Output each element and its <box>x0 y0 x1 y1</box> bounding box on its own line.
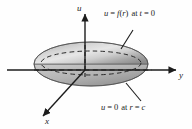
initial-paren-close: ) <box>126 8 129 18</box>
initial-t-symbol: t <box>140 8 142 18</box>
diagram-svg <box>0 0 192 129</box>
boundary-equals-1: = <box>107 102 112 112</box>
y-axis-label: y <box>179 71 183 80</box>
boundary-at-word: at <box>121 102 127 112</box>
initial-equals-1: = <box>110 8 115 18</box>
boundary-condition-label: u=0atr=c <box>101 103 145 112</box>
boundary-c-value: c <box>142 102 146 112</box>
initial-condition-leader-line <box>121 30 133 49</box>
u-axis-label: u <box>77 4 82 13</box>
figure-canvas: u y x u=f(r)att=0 u=0atr=c <box>0 0 192 129</box>
initial-equals-2: = <box>144 8 149 18</box>
boundary-u-symbol: u <box>101 102 105 112</box>
initial-u-symbol: u <box>104 8 108 18</box>
boundary-zero-value: 0 <box>114 102 118 112</box>
ellipsoid-upper-dome <box>34 42 148 64</box>
initial-zero-value: 0 <box>151 8 155 18</box>
initial-displacement-label: u=f(r)att=0 <box>104 9 155 18</box>
ellipsoid-surface <box>34 42 148 86</box>
x-axis-label: x <box>45 117 49 126</box>
initial-at-word: at <box>131 8 137 18</box>
boundary-r-symbol: r <box>129 102 132 112</box>
ellipsoid-lower-half <box>34 64 148 86</box>
boundary-equals-2: = <box>135 102 140 112</box>
boundary-condition-leader-line <box>126 83 141 101</box>
